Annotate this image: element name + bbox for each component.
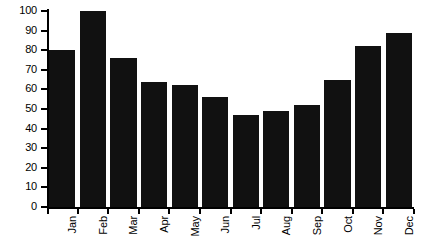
y-axis-tick-label: 10 xyxy=(11,181,37,192)
bar xyxy=(263,111,289,207)
bar xyxy=(110,58,136,207)
y-axis-tick xyxy=(41,128,47,130)
plot-area xyxy=(47,11,414,207)
y-axis-tick-label-wrap: 80 xyxy=(11,44,37,55)
x-axis-tick xyxy=(291,209,293,214)
bar xyxy=(141,82,167,207)
y-axis-tick xyxy=(41,186,47,188)
y-axis-tick xyxy=(41,88,47,90)
y-axis-tick xyxy=(41,167,47,169)
y-axis-tick xyxy=(41,108,47,110)
y-axis-tick-label: 60 xyxy=(11,83,37,94)
x-axis-origin-tick xyxy=(47,209,49,214)
x-axis-tick xyxy=(321,209,323,214)
y-axis-tick xyxy=(41,49,47,51)
y-axis-tick-label-wrap: 30 xyxy=(11,142,37,153)
bar xyxy=(233,115,259,207)
x-axis-tick xyxy=(413,209,415,214)
x-axis-tick xyxy=(352,209,354,214)
bar xyxy=(172,85,198,207)
bar xyxy=(80,11,106,207)
x-axis-category-label: Sep xyxy=(312,216,323,235)
y-axis-tick-label-wrap: 0 xyxy=(11,201,37,212)
bar xyxy=(324,80,350,207)
bar-chart: 0102030405060708090100 JanFebMarAprMayJu… xyxy=(0,0,424,246)
x-axis-category-label: Aug xyxy=(281,216,292,235)
y-axis-tick-label: 100 xyxy=(11,5,37,16)
y-axis-tick xyxy=(41,147,47,149)
y-axis-tick-label: 70 xyxy=(11,64,37,75)
y-axis-tick xyxy=(41,69,47,71)
x-axis-tick xyxy=(260,209,262,214)
bar xyxy=(294,105,320,207)
x-axis-tick xyxy=(199,209,201,214)
y-axis-tick-label: 50 xyxy=(11,103,37,114)
bar xyxy=(355,46,381,207)
y-axis-tick-label-wrap: 40 xyxy=(11,123,37,134)
bar xyxy=(202,97,228,207)
x-axis-category-label: May xyxy=(190,216,201,236)
y-axis-tick xyxy=(41,30,47,32)
y-axis-tick-label: 80 xyxy=(11,44,37,55)
x-axis-category-label: Jan xyxy=(67,216,78,233)
y-axis-tick-label-wrap: 90 xyxy=(11,25,37,36)
y-axis-tick-label: 40 xyxy=(11,123,37,134)
y-axis-tick-label-wrap: 20 xyxy=(11,162,37,173)
bar xyxy=(386,33,412,207)
y-axis-tick-label: 30 xyxy=(11,142,37,153)
x-axis-category-label: Jun xyxy=(220,216,231,233)
x-axis-tick xyxy=(168,209,170,214)
y-axis-tick-label: 90 xyxy=(11,25,37,36)
x-axis-tick xyxy=(77,209,79,214)
x-axis-tick xyxy=(138,209,140,214)
x-axis-category-label: Feb xyxy=(98,216,109,235)
y-axis-tick xyxy=(41,10,47,12)
x-axis-tick xyxy=(107,209,109,214)
x-axis-tick xyxy=(382,209,384,214)
x-axis-category-label: Jul xyxy=(251,216,262,230)
x-axis-category-label: Dec xyxy=(404,216,415,235)
y-axis-tick-label-wrap: 50 xyxy=(11,103,37,114)
y-axis-tick-label-wrap: 60 xyxy=(11,83,37,94)
y-axis-line xyxy=(47,9,49,209)
y-axis-tick-label: 20 xyxy=(11,162,37,173)
x-axis-category-label: Apr xyxy=(159,216,170,233)
x-axis-category-label: Nov xyxy=(373,216,384,235)
bar xyxy=(49,50,75,207)
x-axis-category-label: Mar xyxy=(128,216,139,235)
y-axis-tick-label-wrap: 100 xyxy=(11,5,37,16)
x-axis-tick xyxy=(230,209,232,214)
y-axis-tick-label: 0 xyxy=(11,201,37,212)
y-axis-tick-label-wrap: 70 xyxy=(11,64,37,75)
x-axis-category-label: Oct xyxy=(343,216,354,233)
y-axis-tick-label-wrap: 10 xyxy=(11,181,37,192)
